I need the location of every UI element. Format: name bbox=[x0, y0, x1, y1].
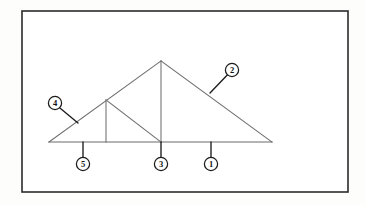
figure-root: 12345 bbox=[0, 0, 365, 205]
callout-3-number: 3 bbox=[159, 159, 163, 169]
callout-2-number: 2 bbox=[230, 65, 234, 75]
callout-1-number: 1 bbox=[209, 159, 213, 169]
callout-5-number: 5 bbox=[81, 159, 85, 169]
truss-diagram-canvas: 12345 bbox=[0, 0, 365, 205]
diagram-border-frame bbox=[22, 11, 348, 192]
